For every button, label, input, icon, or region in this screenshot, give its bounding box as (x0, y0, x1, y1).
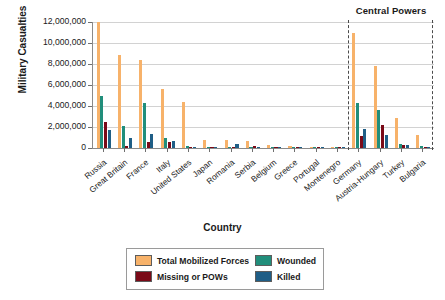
bar-group (352, 22, 366, 148)
bar (360, 136, 363, 148)
bar (104, 122, 107, 148)
x-axis-title: Country (0, 222, 445, 233)
bar (225, 140, 228, 148)
x-axis-tick-mark (103, 148, 104, 152)
bar (189, 147, 192, 148)
x-axis-tick-mark (337, 148, 338, 152)
bar (395, 118, 398, 148)
bar-group (161, 22, 175, 148)
bar (214, 147, 217, 148)
bar (402, 145, 405, 148)
bar (235, 144, 238, 148)
bar (168, 142, 171, 148)
bar (363, 129, 366, 148)
legend-swatch (135, 271, 152, 282)
central-powers-annotation: Central Powers (338, 5, 444, 16)
bar (338, 147, 341, 148)
bar (331, 147, 334, 148)
legend-label: Missing or POWs (157, 272, 228, 282)
legend-label: Total Mobilized Forces (157, 256, 249, 266)
bar-group (139, 22, 153, 148)
x-axis-tick-mark (145, 148, 146, 152)
bar-group (225, 22, 239, 148)
bar (317, 147, 320, 148)
bar (97, 22, 100, 148)
bar (232, 147, 235, 148)
bar-group (182, 22, 196, 148)
bar (193, 147, 196, 148)
bar (377, 110, 380, 148)
bar (257, 147, 260, 148)
y-axis-tick-label: 2,000,000 (12, 121, 86, 131)
bar-group (374, 22, 388, 148)
bar (288, 146, 291, 148)
bar (253, 146, 256, 148)
bar (122, 126, 125, 148)
bar-group (310, 22, 324, 148)
x-axis-tick-mark (380, 148, 381, 152)
bar (406, 145, 409, 148)
bar (172, 141, 175, 148)
legend-item[interactable]: Missing or POWs (135, 271, 228, 282)
x-axis-tick-mark (294, 148, 295, 152)
bar-group (203, 22, 217, 148)
bar (125, 146, 128, 148)
bar (147, 142, 150, 148)
x-axis-tick-mark (231, 148, 232, 152)
x-axis-tick-mark (124, 148, 125, 152)
x-axis-tick-mark (188, 148, 189, 152)
bar (118, 55, 121, 148)
x-axis-tick-mark (422, 148, 423, 152)
bar (385, 135, 388, 148)
bar-group (395, 22, 409, 148)
bar (427, 147, 430, 148)
bar (108, 130, 111, 148)
bar (356, 103, 359, 148)
y-axis-tick-label: 10,000,000 (12, 37, 86, 47)
x-axis-tick-mark (358, 148, 359, 152)
bar (352, 33, 355, 149)
bar (274, 147, 277, 148)
chart-root: Central Powers Military Casualties 02,00… (0, 0, 445, 300)
bar-group (416, 22, 430, 148)
bar (182, 102, 185, 148)
bar (310, 147, 313, 148)
legend-item[interactable]: Total Mobilized Forces (135, 255, 249, 266)
region-divider (348, 20, 349, 150)
bar (299, 147, 302, 148)
legend-label: Killed (277, 272, 300, 282)
y-axis-tick-label: 4,000,000 (12, 100, 86, 110)
bar (416, 135, 419, 148)
legend-swatch (255, 255, 272, 266)
bar (296, 147, 299, 148)
legend-label: Wounded (277, 256, 316, 266)
bar-group (331, 22, 345, 148)
x-axis-tick-mark (316, 148, 317, 152)
x-axis-tick-mark (167, 148, 168, 152)
region-divider (432, 20, 433, 150)
y-axis-tick-label: 0 (12, 142, 86, 152)
bar (424, 147, 427, 148)
bar (129, 138, 132, 148)
x-axis-tick-mark (273, 148, 274, 152)
legend-item[interactable]: Killed (255, 271, 300, 282)
bar (143, 103, 146, 148)
bar-group (267, 22, 281, 148)
y-axis-tick-label: 8,000,000 (12, 58, 86, 68)
bar-group (288, 22, 302, 148)
bar (150, 134, 153, 148)
bar (164, 138, 167, 148)
bar-group (246, 22, 260, 148)
bar (278, 147, 281, 148)
bar (321, 147, 324, 148)
bar (161, 89, 164, 148)
bar (374, 66, 377, 148)
chart-legend: Total Mobilized ForcesWoundedMissing or … (126, 248, 324, 290)
bar (203, 140, 206, 148)
legend-swatch (135, 255, 152, 266)
bar (267, 145, 270, 148)
bar (381, 125, 384, 148)
x-axis-tick-mark (209, 148, 210, 152)
y-axis-tick-label: 12,000,000 (12, 16, 86, 26)
legend-item[interactable]: Wounded (255, 255, 316, 266)
